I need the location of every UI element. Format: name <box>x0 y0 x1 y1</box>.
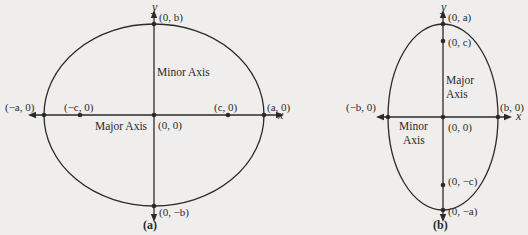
major-axis-label-a: Major Axis <box>95 120 147 133</box>
minor-axis-label-a: Minor Axis <box>157 66 210 79</box>
point-label-neg-c-0: (−c, 0) <box>64 101 93 113</box>
point-label-0-b: (0, b) <box>159 11 183 23</box>
caption-a: (a) <box>143 219 157 231</box>
figure-b-vertical-ellipse <box>378 12 510 220</box>
caption-b: (b) <box>433 219 448 231</box>
point-label-0-neg-c: (0, −c) <box>448 175 477 187</box>
point-label-0-neg-a: (0, −a) <box>448 205 477 217</box>
vertex-b-a <box>441 22 446 27</box>
covertex-b-neg-b <box>386 115 391 120</box>
x-axis-label-a: x <box>278 109 283 121</box>
origin-label-a: (0, 0) <box>158 119 182 131</box>
vertex-b-neg-a <box>441 208 446 213</box>
vertex-neg-a <box>42 113 47 118</box>
y-axis-label-a: y <box>152 1 157 13</box>
point-label-0-c: (0, c) <box>448 36 471 48</box>
figure-a-horizontal-ellipse <box>30 12 282 220</box>
covertex-b-b <box>496 115 501 120</box>
point-label-0-a: (0, a) <box>448 11 471 23</box>
covertex-neg-b <box>152 204 157 209</box>
focus-neg-c <box>78 113 83 118</box>
point-label-neg-a-0: (−a, 0) <box>5 101 34 113</box>
covertex-b <box>152 22 157 27</box>
focus-b-c <box>441 39 446 44</box>
y-axis-label-b: y <box>441 1 446 13</box>
minor-axis-label-b-line2: Axis <box>403 134 425 147</box>
x-axis-label-b: x <box>516 110 521 122</box>
focus-b-neg-c <box>441 183 446 188</box>
minor-axis-label-b-line1: Minor <box>399 120 428 133</box>
origin-a <box>152 113 157 118</box>
point-label-0-neg-b: (0, −b) <box>159 206 189 218</box>
major-axis-label-b-line1: Major <box>446 74 474 87</box>
major-axis-label-b-line2: Axis <box>446 88 468 101</box>
focus-c <box>226 113 231 118</box>
point-label-neg-b-0: (−b, 0) <box>346 101 376 113</box>
vertex-a <box>262 113 267 118</box>
origin-label-b: (0, 0) <box>448 121 472 133</box>
point-label-c-0: (c, 0) <box>214 101 237 113</box>
origin-b <box>441 115 446 120</box>
